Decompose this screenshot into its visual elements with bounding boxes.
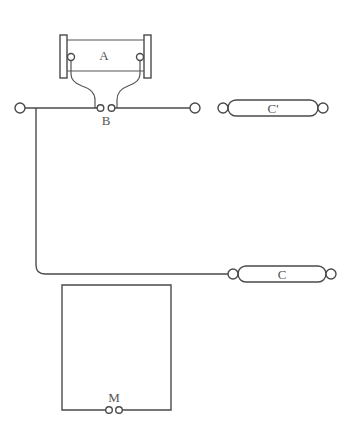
terminal-c-right [326,269,336,279]
label-c-prime: C' [267,101,278,116]
terminal-left-end [15,103,25,113]
component-c-prime: C' [218,100,328,116]
component-c: C [228,266,336,282]
label-a: A [99,48,109,63]
terminal-b-right [108,105,115,112]
wire-a-right [117,61,140,109]
wire-a-left [71,61,95,109]
right-plate [144,35,151,78]
main-line: B [15,103,200,128]
terminal-a-left [68,54,75,61]
terminal-c-left [228,269,238,279]
label-b: B [102,113,111,128]
terminal-m-left [106,407,113,414]
terminal-right-end [190,103,200,113]
terminal-c-prime-right [318,103,328,113]
wire-branch-c [36,108,228,274]
terminal-m-right [116,407,123,414]
terminal-b-left [97,105,104,112]
left-plate [60,35,67,78]
component-m: M [62,285,171,413]
terminal-c-prime-left [218,103,228,113]
circuit-diagram: A B C' C M [0,0,353,439]
label-m: M [108,390,120,405]
component-a: A [60,35,151,108]
label-c: C [278,267,287,282]
terminal-a-right [137,54,144,61]
